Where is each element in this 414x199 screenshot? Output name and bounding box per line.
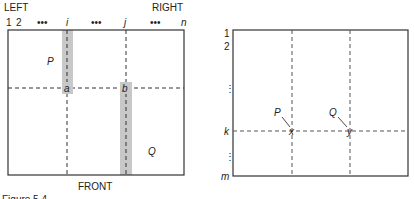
pointer-label-p: P <box>274 107 281 118</box>
label-front: FRONT <box>78 181 112 192</box>
point-a: a <box>64 83 70 94</box>
row-tick-vdots-1: ⋮ <box>225 83 235 94</box>
diagram-canvas: LEFT RIGHT 1 2 ••• i ••• j ••• n P a b Q… <box>0 0 414 199</box>
pointer-label-q: Q <box>329 107 337 118</box>
row-tick-1: 1 <box>224 28 230 39</box>
col-tick-2: 2 <box>16 17 22 28</box>
pointer-line-q <box>338 117 347 127</box>
row-tick-2: 2 <box>224 41 230 52</box>
region-q: Q <box>148 146 156 157</box>
col-tick-ellipsis-3: ••• <box>150 17 161 28</box>
col-tick-1: 1 <box>6 17 12 28</box>
point-y: y <box>346 126 353 137</box>
label-right: RIGHT <box>152 2 183 13</box>
point-b: b <box>122 83 128 94</box>
col-tick-i: i <box>66 17 69 28</box>
row-tick-vdots-2: ⋮ <box>225 151 235 162</box>
col-tick-j: j <box>122 17 127 28</box>
col-tick-n: n <box>181 17 187 28</box>
left-box <box>8 30 184 175</box>
left-diagram <box>8 30 184 175</box>
region-p: P <box>47 56 54 67</box>
label-left: LEFT <box>4 2 28 13</box>
right-box <box>233 30 408 176</box>
row-tick-k: k <box>224 126 230 137</box>
right-diagram <box>233 30 408 176</box>
row-tick-m: m <box>221 171 229 182</box>
col-tick-ellipsis-1: ••• <box>37 17 48 28</box>
caption-fragment: Figure 5.4 <box>2 194 47 199</box>
col-tick-ellipsis-2: ••• <box>91 17 102 28</box>
point-x: x <box>288 126 295 137</box>
